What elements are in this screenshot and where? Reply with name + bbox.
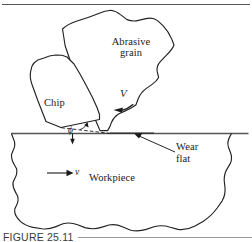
figure-caption: FIGURE 25.11 xyxy=(3,231,73,242)
workpiece-velocity-label: v xyxy=(75,168,79,178)
caption-rule xyxy=(78,237,252,238)
grain-velocity-label: V xyxy=(120,88,127,100)
workpiece-label: Workpiece xyxy=(89,172,135,183)
abrasive-grain-label: Abrasive grain xyxy=(96,36,166,58)
wear-flat-label: Wear flat xyxy=(176,141,198,165)
chip-label: Chip xyxy=(44,97,65,108)
shear-angle-label: ϕ xyxy=(68,126,73,136)
figure-container: Abrasive grain Chip Wear flat Workpiece … xyxy=(0,0,252,242)
